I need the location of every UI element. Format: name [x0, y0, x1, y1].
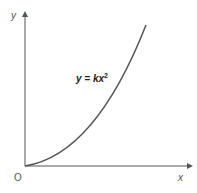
equation-exponent: 2	[104, 72, 108, 79]
x-axis-label: x	[178, 172, 183, 183]
equation-label: y = kx2	[76, 72, 108, 84]
diagram-canvas	[0, 0, 197, 193]
equation-lhs: y = kx	[76, 73, 104, 84]
y-axis-label: y	[11, 10, 16, 21]
parabola-curve	[25, 25, 146, 166]
origin-label: O	[14, 172, 22, 183]
